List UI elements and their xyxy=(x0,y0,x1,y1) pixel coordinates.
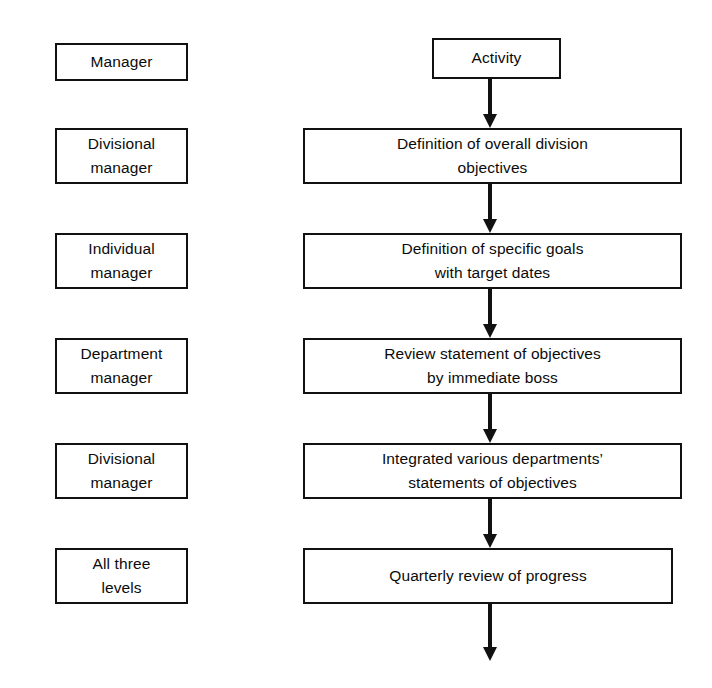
activity-label-line: Definition of overall division xyxy=(397,132,588,156)
activity-box-define-division-objectives: Definition of overall division objective… xyxy=(303,128,682,184)
activity-label-line: with target dates xyxy=(435,261,550,285)
activity-box-quarterly-review-of-progress: Quarterly review of progress xyxy=(303,548,673,604)
activity-label-line: Quarterly review of progress xyxy=(389,564,586,588)
activity-box-review-statement-of-objectives: Review statement of objectives by immedi… xyxy=(303,338,682,394)
activity-label-line: Definition of specific goals xyxy=(401,237,583,261)
arrow-step2-to-step3 xyxy=(488,289,492,325)
activity-box-define-specific-goals: Definition of specific goals with target… xyxy=(303,233,682,289)
role-box-all-three-levels: All three levels xyxy=(55,548,188,604)
role-label-line: Divisional xyxy=(88,132,155,156)
role-label-line: Manager xyxy=(91,50,153,74)
activity-label-line: Activity xyxy=(472,46,522,70)
activity-label-line: by immediate boss xyxy=(427,366,558,390)
activity-label-line: objectives xyxy=(458,156,528,180)
role-box-manager: Manager xyxy=(55,43,188,81)
role-label-line: manager xyxy=(91,366,153,390)
role-label-line: manager xyxy=(91,156,153,180)
role-box-divisional-manager-1: Divisional manager xyxy=(55,128,188,184)
arrow-activity-to-step1 xyxy=(488,79,492,115)
role-box-department-manager: Department manager xyxy=(55,338,188,394)
role-label-line: Department xyxy=(81,342,163,366)
role-label-line: All three xyxy=(93,552,151,576)
arrow-step4-to-step5 xyxy=(488,499,492,535)
role-label-line: levels xyxy=(101,576,141,600)
arrow-step5-outgoing xyxy=(488,604,492,648)
activity-box-integrate-department-statements: Integrated various departments’ statemen… xyxy=(303,443,682,499)
activity-label-line: statements of objectives xyxy=(408,471,577,495)
activity-header-box: Activity xyxy=(432,38,561,79)
role-label-line: Divisional xyxy=(88,447,155,471)
role-label-line: manager xyxy=(91,471,153,495)
role-label-line: Individual xyxy=(88,237,155,261)
activity-label-line: Integrated various departments’ xyxy=(382,447,603,471)
role-label-line: manager xyxy=(91,261,153,285)
arrow-step1-to-step2 xyxy=(488,184,492,220)
flowchart-canvas: Manager Divisional manager Individual ma… xyxy=(0,0,712,688)
role-box-individual-manager: Individual manager xyxy=(55,233,188,289)
activity-label-line: Review statement of objectives xyxy=(384,342,601,366)
arrow-step3-to-step4 xyxy=(488,394,492,430)
role-box-divisional-manager-2: Divisional manager xyxy=(55,443,188,499)
